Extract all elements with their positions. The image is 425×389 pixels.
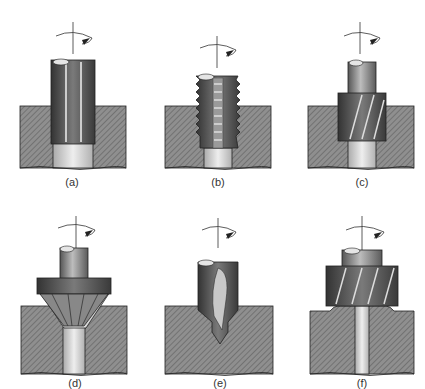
rotation-arrow-icon [200,36,236,68]
rotation-arrow-icon [202,218,236,248]
panel-label-e: (e) [205,377,235,389]
panel-f [310,216,414,376]
panel-label-f: (f) [347,377,377,389]
rotation-arrow-icon [58,216,95,248]
panel-b [165,36,271,170]
panel-e [165,218,273,376]
machining-operations-figure: (a) (b) (c) (d) (e) (f) [0,0,425,389]
panel-label-b: (b) [203,176,233,188]
rotation-arrow-icon [346,216,384,250]
panel-a [20,22,126,170]
rotation-arrow-icon [344,22,380,54]
rotation-arrow-icon [56,22,92,54]
panel-c [308,22,414,170]
panel-label-a: (a) [57,176,87,188]
panel-label-d: (d) [60,377,90,389]
panel-d [21,216,127,376]
panel-label-c: (c) [347,176,377,188]
figure-canvas [0,0,425,389]
